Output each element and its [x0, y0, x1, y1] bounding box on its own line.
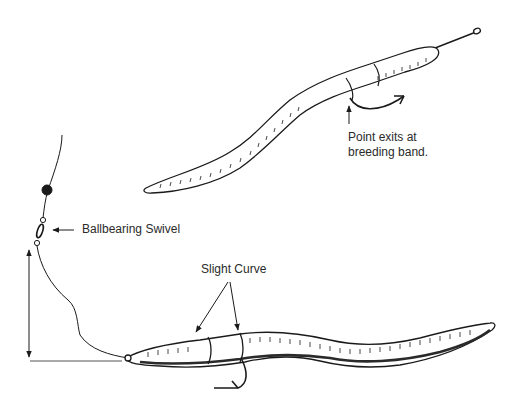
- label-slight-curve: Slight Curve: [201, 262, 266, 277]
- swivel-ring-top: [40, 217, 45, 222]
- hook-bend: [350, 96, 404, 109]
- fishing-line: [34, 135, 128, 358]
- label-point-exits: Point exits at breeding band.: [348, 130, 428, 160]
- label-swivel: Ballbearing Swivel: [82, 222, 180, 237]
- lower-worm: [125, 323, 495, 388]
- hook-eye-icon: [473, 27, 482, 35]
- hook-point: [232, 381, 238, 388]
- diagram-canvas: Point exits at breeding band. Ballbearin…: [0, 0, 518, 411]
- bead-icon: [42, 185, 52, 195]
- upper-worm: [144, 27, 481, 193]
- swivel-icon: [35, 224, 44, 239]
- slight-curve-arrows: [196, 282, 238, 332]
- label-point-exits-line2: breeding band.: [348, 145, 428, 160]
- hook-shank: [430, 32, 476, 50]
- label-point-exits-line1: Point exits at: [348, 130, 428, 145]
- swivel-ring-bottom: [34, 240, 39, 245]
- hook-eye-icon: [125, 355, 131, 361]
- illustration: [0, 0, 518, 411]
